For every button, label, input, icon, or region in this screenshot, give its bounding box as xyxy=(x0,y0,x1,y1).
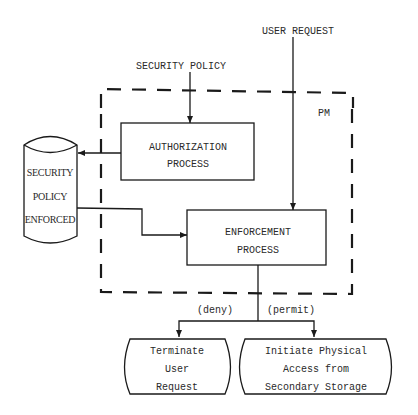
store-label-line1: SECURITY xyxy=(27,167,74,178)
authorization-process-line2: PROCESS xyxy=(167,159,209,170)
user-request-label: USER REQUEST xyxy=(262,26,334,37)
enforcement-process-line2: PROCESS xyxy=(237,245,279,256)
security-policy-label: SECURITY POLICY xyxy=(136,61,226,72)
initiate-line2: Access from xyxy=(283,364,349,375)
initiate-line3: Secondary Storage xyxy=(265,382,367,393)
terminate-line1: Terminate xyxy=(150,346,204,357)
deny-label: (deny) xyxy=(197,305,233,316)
permit-label: (permit) xyxy=(267,305,315,316)
store-cylinder-rim xyxy=(24,145,77,153)
terminate-line2: User xyxy=(165,364,189,375)
pm-boundary-top xyxy=(101,89,353,108)
authorization-process-line1: AUTHORIZATION xyxy=(149,142,227,153)
store-label-line2: POLICY xyxy=(33,191,67,202)
permit-arrow xyxy=(258,321,314,337)
terminate-line3: Request xyxy=(156,382,198,393)
initiate-line1: Initiate Physical xyxy=(265,346,367,357)
security-policy-store xyxy=(24,137,77,244)
pm-label: PM xyxy=(318,108,330,119)
store-to-enforcement-arrow xyxy=(77,208,187,235)
store-label-line3: ENFORCED xyxy=(25,214,75,225)
enforcement-process-line1: ENFORCEMENT xyxy=(225,227,291,238)
security-diagram: USER REQUEST SECURITY POLICY PM AUTHORIZ… xyxy=(0,0,418,415)
deny-arrow xyxy=(179,321,258,337)
